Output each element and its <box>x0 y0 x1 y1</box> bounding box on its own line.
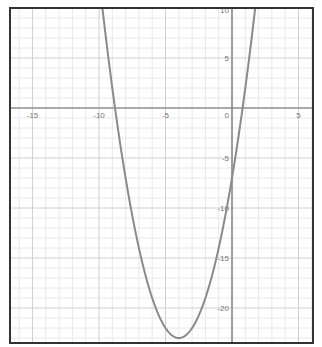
y-tick-label: -15 <box>217 254 229 263</box>
y-tick-label: -20 <box>217 304 229 313</box>
function-plot: -15-10-550105-5-10-15-20 <box>0 0 322 347</box>
y-tick-label: -5 <box>222 154 230 163</box>
origin-label: 0 <box>225 111 230 120</box>
x-tick-label: -15 <box>27 111 39 120</box>
x-tick-label: -5 <box>162 111 170 120</box>
y-tick-label: 5 <box>225 54 230 63</box>
x-tick-label: -10 <box>93 111 105 120</box>
x-tick-label: 5 <box>296 111 301 120</box>
